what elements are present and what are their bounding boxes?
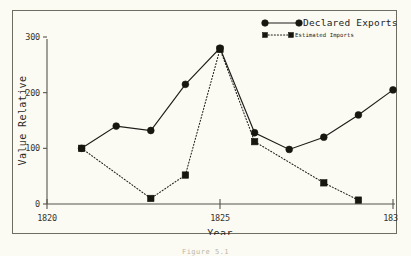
data-series-layer — [78, 45, 396, 204]
x-axis-title: Year — [207, 228, 233, 235]
data-point-circle — [286, 146, 293, 153]
data-point-circle — [320, 134, 327, 141]
x-axis-tick-labels: 182018251830 — [37, 213, 398, 223]
legend-marker-square — [289, 33, 294, 38]
line-chart: 0100200300 182018251830 Value Relative Y… — [13, 11, 398, 235]
data-point-square — [251, 138, 257, 144]
figure-frame: 0100200300 182018251830 Value Relative Y… — [12, 10, 397, 234]
data-series — [78, 45, 396, 153]
legend-marker-square — [263, 33, 268, 38]
figure-caption: Figure 5.1 — [0, 248, 411, 256]
data-point-circle — [113, 123, 120, 130]
chart-legend: Declared ExportsEstimated Imports — [262, 17, 398, 39]
data-point-circle — [182, 81, 189, 88]
page-background: 0100200300 182018251830 Value Relative Y… — [0, 0, 411, 256]
y-tick-label: 0 — [35, 199, 40, 209]
legend-marker-circle — [262, 20, 269, 27]
y-tick-label: 300 — [25, 32, 40, 42]
legend-label: Declared Exports — [303, 17, 398, 28]
data-point-square — [78, 145, 84, 151]
chart-plot-area: 0100200300 182018251830 Value Relative Y… — [13, 11, 396, 233]
data-point-circle — [251, 129, 258, 136]
y-axis-ticks — [43, 37, 47, 204]
x-tick-label: 1825 — [210, 213, 230, 223]
x-tick-label: 1830 — [383, 213, 398, 223]
y-axis-title: Value Relative — [17, 76, 28, 166]
axes — [43, 37, 395, 209]
legend-marker-circle — [296, 20, 303, 27]
data-point-square — [355, 197, 361, 203]
data-point-square — [148, 195, 154, 201]
data-point-circle — [147, 127, 154, 134]
legend-label: Estimated Imports — [295, 32, 354, 39]
data-series — [78, 46, 361, 203]
data-point-square — [217, 46, 223, 52]
data-point-square — [182, 172, 188, 178]
data-point-circle — [390, 86, 397, 93]
x-tick-label: 1820 — [37, 213, 57, 223]
data-point-circle — [355, 112, 362, 119]
data-point-square — [321, 180, 327, 186]
